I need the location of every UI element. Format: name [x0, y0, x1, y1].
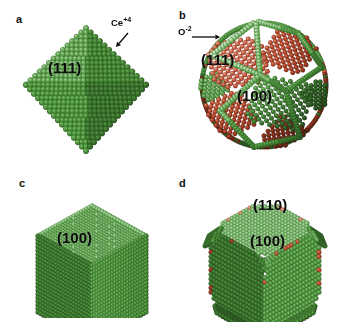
panel-c: c (100): [0, 164, 174, 328]
facet-label-110: (110): [253, 197, 287, 212]
facet-label-100: (100): [57, 230, 92, 245]
cube-nanocrystal: [26, 176, 158, 318]
cerium-ion-arrow-icon: [0, 0, 174, 164]
panel-a: a (111) Ce+4: [0, 0, 174, 164]
figure-canvas: a (111) Ce+4 b (111) (100) O-2 c (100) d…: [0, 0, 349, 328]
oxygen-ion-arrow-icon: [175, 0, 349, 164]
panel-label-d: d: [179, 178, 186, 189]
panel-b: b (111) (100) O-2: [175, 0, 349, 164]
facet-label-100: (100): [250, 233, 285, 248]
panel-d: d (110) (100): [175, 164, 349, 328]
panel-label-c: c: [19, 178, 25, 189]
